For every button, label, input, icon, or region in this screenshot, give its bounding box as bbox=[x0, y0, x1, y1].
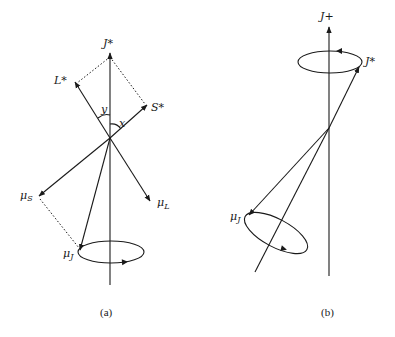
parallelogram-dotted-right bbox=[110, 57, 145, 104]
j-star-extension-line bbox=[255, 128, 329, 272]
precession-ellipse-top bbox=[298, 51, 362, 73]
mu-j-vector-b bbox=[249, 128, 329, 215]
precession-arrow-icon bbox=[122, 259, 129, 266]
mu-dotted-link bbox=[40, 199, 79, 248]
label-j-star: J* bbox=[101, 37, 113, 50]
caption-a: (a) bbox=[100, 306, 113, 319]
panel-a: J* L* S* y x μS μL μJ (a) bbox=[20, 37, 169, 319]
label-l-star: L* bbox=[53, 74, 67, 87]
panel-b: J+ J* μJ (b) bbox=[230, 10, 375, 319]
label-mu-s: μS bbox=[20, 189, 33, 203]
label-mu-j-b: μJ bbox=[230, 210, 241, 224]
precession-ellipse-a bbox=[78, 241, 144, 263]
label-angle-y: y bbox=[100, 103, 108, 116]
vector-coupling-diagram: J* L* S* y x μS μL μJ (a) J+ J* μJ (b) bbox=[0, 0, 395, 337]
label-angle-x: x bbox=[119, 117, 126, 130]
mu-j-vector bbox=[80, 138, 110, 250]
label-j-plus: J+ bbox=[318, 10, 334, 23]
j-star-vector-b bbox=[329, 67, 359, 128]
caption-b: (b) bbox=[321, 306, 334, 319]
precession-ellipse-bottom bbox=[239, 204, 314, 262]
s-star-vector bbox=[110, 105, 147, 138]
parallelogram-dotted-left bbox=[77, 57, 110, 83]
mu-s-vector bbox=[39, 138, 110, 196]
label-mu-l: μL bbox=[157, 196, 169, 211]
label-mu-j: μJ bbox=[63, 247, 74, 261]
precession-arrow-top-icon bbox=[336, 48, 342, 54]
label-j-star-b: J* bbox=[363, 55, 375, 68]
mu-l-vector bbox=[110, 138, 150, 201]
label-s-star: S* bbox=[151, 101, 165, 114]
